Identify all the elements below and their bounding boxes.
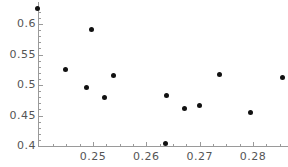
x-axis-minor-tick <box>280 144 281 146</box>
data-point <box>164 93 169 98</box>
x-axis-minor-tick <box>80 144 81 146</box>
x-axis-tick-label: 0.28 <box>223 151 283 162</box>
y-axis-tick-label: 0.5 <box>17 79 36 90</box>
y-axis-minor-tick <box>39 140 41 141</box>
x-axis-minor-tick <box>173 144 174 146</box>
x-axis-minor-tick <box>106 144 107 146</box>
x-axis-tick-label: 0.26 <box>116 151 176 162</box>
y-axis-minor-tick <box>39 18 41 19</box>
data-point <box>197 103 202 108</box>
y-axis-tick-label: 0.6 <box>17 18 36 29</box>
data-point <box>89 27 94 32</box>
y-axis-minor-tick <box>39 73 41 74</box>
y-axis-minor-tick <box>39 79 41 80</box>
data-point <box>63 67 68 72</box>
x-axis-minor-tick <box>66 144 67 146</box>
x-axis-minor-tick <box>226 144 227 146</box>
x-axis-tick-label: 0.27 <box>170 151 230 162</box>
y-axis-minor-tick <box>39 134 41 135</box>
data-point <box>35 6 40 11</box>
x-axis-minor-tick <box>240 144 241 146</box>
y-axis-tick-label: 0.4 <box>17 140 36 151</box>
y-axis-minor-tick <box>39 36 41 37</box>
data-point <box>102 95 107 100</box>
y-axis-tick <box>39 24 43 25</box>
x-axis-minor-tick <box>213 144 214 146</box>
x-axis-tick <box>93 142 94 146</box>
x-axis-minor-tick <box>266 144 267 146</box>
data-point <box>111 73 116 78</box>
x-axis-minor-tick <box>160 144 161 146</box>
scatter-plot-figure: 0.60.550.50.450.40.250.260.270.28 <box>0 0 288 167</box>
x-axis-tick-label: 0.25 <box>63 151 123 162</box>
y-axis-minor-tick <box>39 67 41 68</box>
x-axis-minor-tick <box>186 144 187 146</box>
data-point <box>163 141 168 146</box>
data-point <box>84 85 89 90</box>
y-axis-minor-tick <box>39 48 41 49</box>
x-axis-minor-tick <box>120 144 121 146</box>
y-axis-tick-label: 0.55 <box>10 49 37 60</box>
y-axis-minor-tick <box>39 42 41 43</box>
plot-area: 0.60.550.50.450.40.250.260.270.28 <box>0 0 288 167</box>
x-axis-minor-tick <box>53 144 54 146</box>
x-axis-minor-tick <box>133 144 134 146</box>
y-axis-minor-tick <box>39 61 41 62</box>
x-axis-line <box>38 146 288 147</box>
y-axis-tick <box>39 55 43 56</box>
y-axis-tick <box>39 85 43 86</box>
y-axis-minor-tick <box>39 109 41 110</box>
x-axis-tick <box>200 142 201 146</box>
y-axis-minor-tick <box>39 30 41 31</box>
y-axis-minor-tick <box>39 91 41 92</box>
y-axis-minor-tick <box>39 12 41 13</box>
y-axis-tick <box>39 116 43 117</box>
data-point <box>248 110 253 115</box>
x-axis-tick <box>253 142 254 146</box>
y-axis-minor-tick <box>39 103 41 104</box>
y-axis-minor-tick <box>39 128 41 129</box>
y-axis-tick <box>39 146 43 147</box>
y-axis-tick-label: 0.45 <box>10 110 37 121</box>
data-point <box>280 75 285 80</box>
data-point <box>182 106 187 111</box>
x-axis-tick <box>146 142 147 146</box>
y-axis-minor-tick <box>39 122 41 123</box>
y-axis-minor-tick <box>39 97 41 98</box>
data-point <box>217 72 222 77</box>
